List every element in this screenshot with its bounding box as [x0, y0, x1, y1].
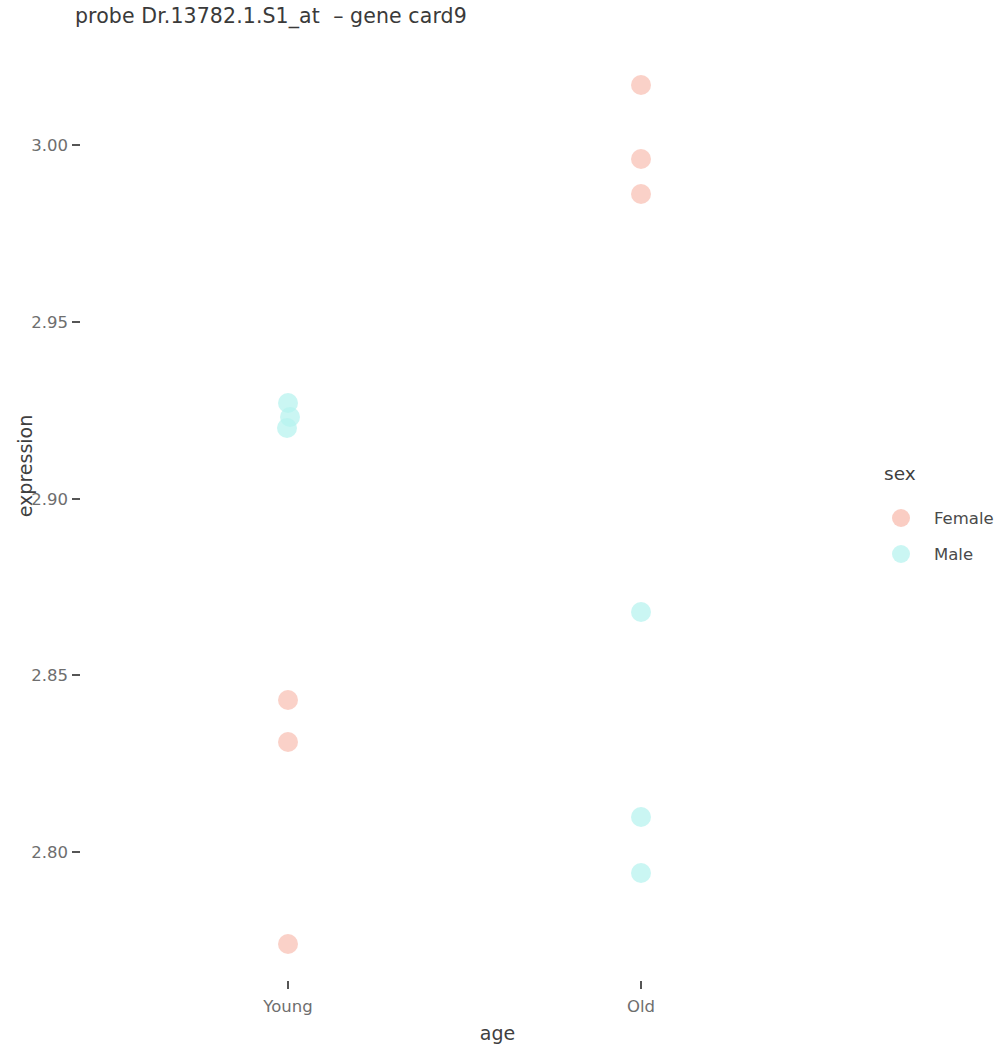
scatter-plot: probe Dr.13782.1.S1_at – gene card9 expr… [0, 0, 995, 1049]
y-tick-mark [72, 674, 80, 676]
x-tick-mark [287, 981, 289, 989]
data-point [631, 184, 651, 204]
legend-key-icon [884, 537, 918, 571]
x-tick-label: Young [188, 997, 388, 1016]
data-point [278, 690, 298, 710]
legend-label: Female [934, 509, 994, 528]
y-tick-label: 2.90 [8, 489, 68, 508]
y-tick-mark [72, 851, 80, 853]
legend-key-icon [884, 501, 918, 535]
y-tick-mark [72, 498, 80, 500]
legend-item-male[interactable]: Male [884, 536, 995, 572]
data-point [631, 807, 651, 827]
legend-title: sex [884, 463, 995, 484]
data-point [631, 602, 651, 622]
x-axis-title: age [0, 1022, 995, 1044]
y-tick-label: 2.95 [8, 312, 68, 331]
data-point [631, 863, 651, 883]
legend-label: Male [934, 545, 973, 564]
y-tick-mark [72, 144, 80, 146]
y-axis-title: expression [14, 406, 36, 526]
legend: sex FemaleMale [884, 463, 995, 572]
x-tick-label: Old [541, 997, 741, 1016]
y-tick-mark [72, 321, 80, 323]
y-tick-label: 2.80 [8, 843, 68, 862]
x-tick-mark [640, 981, 642, 989]
y-tick-label: 3.00 [8, 136, 68, 155]
y-tick-label: 2.85 [8, 666, 68, 685]
legend-item-female[interactable]: Female [884, 500, 995, 536]
data-point [631, 75, 651, 95]
data-point [278, 732, 298, 752]
chart-title: probe Dr.13782.1.S1_at – gene card9 [75, 4, 467, 28]
legend-entries: FemaleMale [884, 500, 995, 572]
data-point [278, 934, 298, 954]
data-point [631, 149, 651, 169]
data-point [277, 418, 297, 438]
